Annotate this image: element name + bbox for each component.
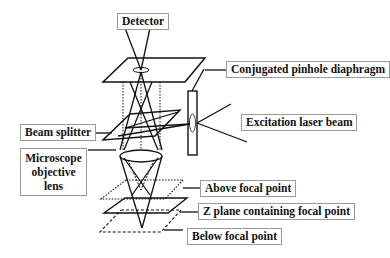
detector-ray-left [125,28,141,70]
laser-label: Excitation laser beam [241,114,357,131]
pinhole-plane [103,58,205,82]
detector-ray-right [141,28,150,70]
zplane-label: Z plane containing focal point [198,203,355,220]
detector-label: Detector [117,13,169,30]
below-focal-label: Below focal point [187,228,282,245]
beam-splitter-label: Beam splitter [20,124,96,141]
excitation-lens [190,114,196,132]
above-focal-label: Above focal point [200,180,296,197]
z-focal-plane [104,198,187,213]
pinhole-label: Conjugated pinhole diaphragm [226,61,390,78]
objective-label: Microscope objective lens [20,148,87,196]
